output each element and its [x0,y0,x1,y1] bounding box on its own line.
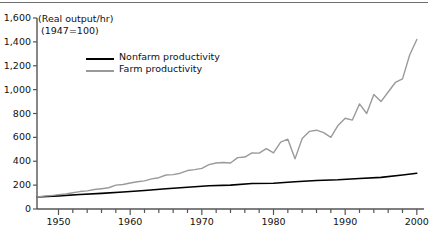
x-axis-tick-label: 1950 [39,216,79,227]
y-axis-tick-label: 1,400 [0,36,31,47]
series-line-farm-productivity [37,39,417,197]
y-axis-tick-label: 1,000 [0,84,31,95]
series-group [37,39,417,197]
x-ticks-group [59,209,417,215]
x-axis-tick-label: 1970 [182,216,222,227]
legend-swatch-farm-productivity [86,70,114,72]
x-axis-tick-label: 2000 [397,216,433,227]
y-axis-unit-note-line1: (Real output/hr) [38,13,113,24]
y-axis-tick-label: 800 [0,108,31,119]
x-axis-tick-label: 1990 [325,216,365,227]
y-axis-tick-label: 600 [0,131,31,142]
legend-label-farm-productivity: Farm productivity [119,63,202,74]
x-axis-tick-label: 1980 [254,216,294,227]
legend-swatch-nonfarm-productivity [86,58,114,60]
legend-label-nonfarm-productivity: Nonfarm productivity [119,51,220,62]
series-line-nonfarm-productivity [37,173,417,197]
y-axis-tick-label: 400 [0,155,31,166]
x-axis-tick-label: 1960 [110,216,150,227]
y-axis-tick-label: 200 [0,179,31,190]
y-axis-tick-label: 1,600 [0,12,31,23]
y-axis-tick-label: 0 [0,203,31,214]
y-axis-tick-label: 1,200 [0,60,31,71]
y-axis-base-year-note: (1947=100) [41,25,99,36]
